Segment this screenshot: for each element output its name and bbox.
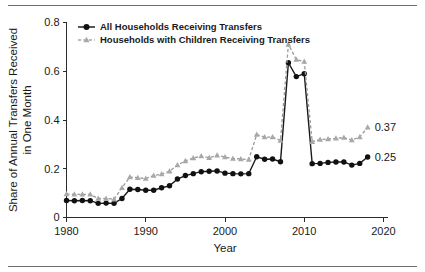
- legend-label: All Households Receiving Transfers: [100, 21, 262, 32]
- legend-label: Households with Children Receiving Trans…: [100, 34, 310, 45]
- data-point: [222, 170, 227, 175]
- x-tick-label: 2020: [371, 225, 395, 237]
- data-point: [111, 201, 116, 206]
- legend-entry-1[interactable]: Households with Children Receiving Trans…: [78, 34, 310, 45]
- data-point: [238, 171, 243, 176]
- data-point: [262, 157, 267, 162]
- data-point: [135, 187, 140, 192]
- data-point: [183, 173, 188, 178]
- series-markers-0: [64, 60, 371, 206]
- data-point: [151, 172, 157, 177]
- data-point: [103, 200, 108, 205]
- y-axis-title-line1: Share of Annual Transfers Received: [7, 28, 19, 212]
- data-point: [206, 168, 211, 173]
- data-point: [175, 162, 181, 167]
- data-point: [333, 159, 338, 164]
- data-point: [294, 74, 299, 79]
- legend-marker-circle-icon: [84, 24, 90, 30]
- data-point: [317, 161, 322, 166]
- data-point: [80, 198, 85, 203]
- data-point: [96, 201, 101, 206]
- x-axis-title: Year: [213, 242, 236, 254]
- y-tick-label: 0.2: [44, 163, 59, 175]
- data-point: [365, 154, 370, 159]
- data-point: [325, 160, 330, 165]
- line-chart: 00.20.40.60.819801990200020102020YearSha…: [0, 0, 425, 272]
- data-point: [317, 136, 323, 141]
- data-point: [214, 168, 219, 173]
- data-point: [175, 176, 180, 181]
- data-point: [214, 152, 220, 157]
- data-point: [278, 159, 283, 164]
- data-point: [309, 161, 314, 166]
- y-tick-label: 0.6: [44, 65, 59, 77]
- data-point: [254, 154, 259, 159]
- y-axis-title-line2: in One Month: [21, 85, 33, 154]
- data-point: [119, 196, 124, 201]
- end-label-children: 0.37: [375, 121, 396, 133]
- data-point: [301, 58, 307, 63]
- data-point: [357, 161, 362, 166]
- data-point: [357, 134, 363, 139]
- data-point: [254, 132, 260, 137]
- data-point: [199, 169, 204, 174]
- data-point: [341, 159, 346, 164]
- data-point: [341, 134, 347, 139]
- data-point: [159, 185, 164, 190]
- y-tick-label: 0.4: [44, 114, 59, 126]
- data-point: [230, 171, 235, 176]
- series-markers-1: [64, 41, 371, 201]
- data-point: [167, 183, 172, 188]
- data-point: [72, 198, 77, 203]
- legend-entry-0[interactable]: All Households Receiving Transfers: [78, 21, 262, 32]
- data-point: [270, 134, 276, 139]
- data-point: [293, 56, 299, 61]
- data-point: [88, 198, 93, 203]
- data-point: [365, 124, 371, 129]
- data-point: [198, 153, 204, 158]
- data-point: [143, 188, 148, 193]
- data-point: [127, 187, 132, 192]
- data-point: [246, 171, 251, 176]
- end-label-all: 0.25: [375, 151, 396, 163]
- data-point: [246, 156, 252, 161]
- y-tick-label: 0.8: [44, 16, 59, 28]
- series-line-0: [67, 63, 368, 204]
- y-tick-label: 0: [53, 211, 59, 223]
- series-line-1: [67, 44, 368, 199]
- data-point: [302, 71, 307, 76]
- x-tick-label: 1980: [54, 225, 78, 237]
- x-tick-label: 2010: [292, 225, 316, 237]
- figure-container: 00.20.40.60.819801990200020102020YearSha…: [0, 0, 425, 272]
- x-tick-label: 1990: [134, 225, 158, 237]
- data-point: [151, 188, 156, 193]
- data-point: [230, 155, 236, 160]
- data-point: [270, 156, 275, 161]
- data-point: [64, 198, 69, 203]
- data-point: [349, 162, 354, 167]
- data-point: [191, 171, 196, 176]
- x-tick-label: 2000: [213, 225, 237, 237]
